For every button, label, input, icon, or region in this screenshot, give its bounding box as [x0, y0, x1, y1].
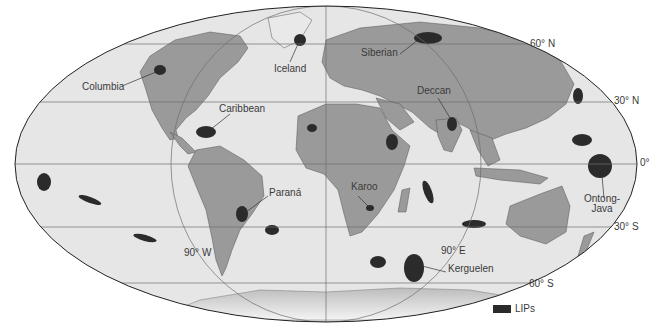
legend: LIPs [493, 303, 535, 314]
label-caribbean: Caribbean [219, 104, 265, 114]
label-karoo: Karoo [351, 182, 378, 192]
label-60n: 60° N [530, 39, 555, 49]
label-90e: 90° E [441, 246, 466, 256]
world-map [0, 0, 660, 328]
lip-pacific-w [572, 134, 592, 146]
lip-indian-3 [370, 256, 386, 268]
label-iceland: Iceland [274, 64, 306, 74]
lip-pacific-nw [573, 88, 583, 104]
label-parana: Paraná [269, 188, 301, 198]
label-deccan: Deccan [417, 86, 451, 96]
label-30s: 30° S [614, 222, 639, 232]
lip-karoo [366, 205, 374, 211]
label-60s: 60° S [529, 279, 554, 289]
lip-west-africa [307, 124, 317, 132]
legend-swatch-lip [493, 305, 511, 313]
label-90w: 90° W [184, 248, 211, 258]
label-equator: 0° [640, 158, 650, 168]
lip-deccan [447, 117, 457, 131]
lip-columbia [154, 65, 166, 75]
label-kerguelen: Kerguelen [448, 264, 494, 274]
lip-parana [236, 206, 248, 222]
lip-ethiopia [386, 134, 398, 150]
lip-siberian [414, 32, 442, 44]
lip-ontong-java [588, 154, 612, 178]
label-ontong-java-line2: Java [584, 204, 620, 214]
lip-atlantic-1 [265, 225, 279, 235]
label-ontong-java: Ontong- Java [584, 194, 620, 214]
legend-label: LIPs [515, 303, 535, 314]
label-siberian: Siberian [361, 48, 398, 58]
lip-kerguelen [404, 254, 424, 282]
label-30n: 30° N [614, 96, 639, 106]
label-columbia: Columbia [82, 82, 124, 92]
lip-pacific-1 [37, 173, 51, 191]
